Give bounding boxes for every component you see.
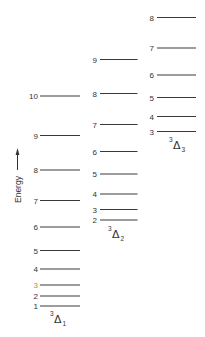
energy-level: 8: [93, 90, 138, 99]
energy-level: 4: [34, 265, 80, 274]
energy-level-label: 3: [34, 281, 39, 290]
energy-level-label: 1: [34, 302, 39, 311]
energy-level: 1: [34, 302, 80, 311]
energy-level: 6: [93, 148, 138, 157]
term-subscript: 1: [63, 320, 67, 327]
energy-level-label: 8: [93, 90, 98, 99]
energy-level-label: 4: [93, 190, 98, 199]
term-delta-symbol: Δ: [54, 313, 62, 326]
energy-level-label: 5: [34, 247, 39, 256]
energy-level-label: 9: [34, 132, 39, 141]
term-symbol-delta2: 3Δ2: [108, 225, 125, 242]
energy-level-label: 8: [150, 14, 155, 23]
term-delta-symbol: Δ: [112, 228, 120, 241]
term-column-delta2: 234567893Δ2: [93, 56, 138, 243]
energy-level-label: 2: [93, 216, 98, 225]
energy-level: 5: [93, 170, 138, 179]
energy-level-label: 7: [150, 44, 155, 53]
energy-level: 4: [150, 113, 196, 122]
energy-level: 6: [34, 223, 80, 232]
energy-level-label: 3: [93, 206, 98, 215]
term-delta-symbol: Δ: [173, 139, 181, 152]
energy-level-label: 10: [29, 92, 38, 101]
energy-level: 7: [93, 121, 138, 130]
energy-level-label: 5: [93, 170, 98, 179]
energy-level-label: 6: [150, 71, 155, 80]
energy-level: 8: [150, 14, 196, 23]
energy-level: 4: [93, 190, 138, 199]
term-subscript: 3: [182, 146, 186, 153]
energy-level-diagram: Energy 123456789103Δ1234567893Δ23456783Δ…: [0, 0, 205, 337]
energy-level-label: 3: [150, 128, 155, 137]
energy-level: 6: [150, 71, 196, 80]
energy-level: 9: [34, 132, 80, 141]
energy-level-label: 8: [34, 166, 39, 175]
energy-level: 5: [34, 247, 80, 256]
energy-level-label: 6: [34, 223, 39, 232]
energy-level-label: 4: [150, 113, 155, 122]
energy-level: 2: [34, 292, 80, 301]
energy-level: 3: [93, 206, 138, 215]
energy-level: 3: [34, 281, 80, 290]
energy-level: 10: [29, 92, 80, 101]
term-subscript: 2: [121, 235, 125, 242]
energy-level: 7: [34, 197, 80, 206]
energy-level-label: 7: [34, 197, 39, 206]
term-columns: 123456789103Δ1234567893Δ23456783Δ3: [29, 14, 196, 328]
term-symbol-delta3: 3Δ3: [169, 136, 186, 153]
energy-level: 9: [93, 56, 138, 65]
energy-level: 2: [93, 216, 138, 225]
energy-level: 3: [150, 128, 196, 137]
term-column-delta3: 3456783Δ3: [150, 14, 196, 153]
term-symbol-delta1: 3Δ1: [50, 310, 67, 327]
energy-axis: Energy: [13, 148, 23, 203]
term-column-delta1: 123456789103Δ1: [29, 92, 80, 327]
energy-level-label: 7: [93, 121, 98, 130]
energy-level-label: 4: [34, 265, 39, 274]
energy-level: 7: [150, 44, 196, 53]
energy-level-label: 9: [93, 56, 98, 65]
energy-level: 5: [150, 94, 196, 103]
energy-axis-label: Energy: [13, 175, 23, 203]
energy-arrow-head-icon: [16, 148, 20, 155]
energy-level: 8: [34, 166, 80, 175]
energy-level-label: 6: [93, 148, 98, 157]
energy-level-label: 5: [150, 94, 155, 103]
energy-level-label: 2: [34, 292, 39, 301]
